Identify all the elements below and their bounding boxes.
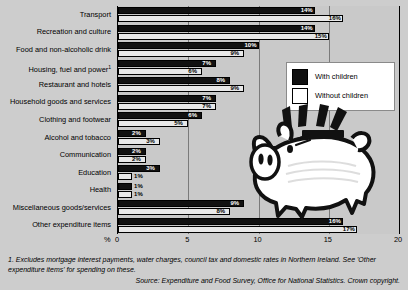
bar-without-children bbox=[118, 85, 244, 92]
bar-value-label: 9% bbox=[229, 49, 240, 57]
x-tick-10: 10 bbox=[253, 235, 261, 244]
chart-legend: With children Without children bbox=[286, 62, 395, 111]
bar-value-label: 6% bbox=[187, 67, 198, 75]
bar-without-children bbox=[118, 15, 343, 22]
bar-group: 16%17% bbox=[118, 216, 399, 234]
source-text: Source: Expenditure and Food Survey, Off… bbox=[8, 276, 400, 286]
bar-value-label: 7% bbox=[201, 94, 212, 102]
bar-without-children bbox=[118, 173, 132, 180]
legend-label-with-children: With children bbox=[315, 72, 358, 81]
bar-with-children bbox=[118, 218, 343, 225]
bar-without-children bbox=[118, 226, 357, 233]
bar-rows: 14%16%14%15%10%9%7%6%8%9%7%7%6%5%2%3%2%2… bbox=[118, 6, 399, 234]
category-label: Health bbox=[90, 186, 111, 194]
bar-value-label: 6% bbox=[187, 111, 198, 119]
bar-value-label: 1% bbox=[133, 172, 144, 180]
category-label: Miscellaneous goods/services bbox=[13, 204, 111, 212]
gridline-20 bbox=[399, 6, 400, 234]
bar-value-label: 8% bbox=[215, 76, 226, 84]
bar-with-children bbox=[118, 77, 230, 84]
bar-value-label: 5% bbox=[173, 119, 184, 127]
bar-group: 9%8% bbox=[118, 199, 399, 217]
bar-value-label: 7% bbox=[201, 59, 212, 67]
category-label: Restaurant and hotels bbox=[39, 81, 111, 89]
legend-swatch-without-children bbox=[292, 88, 308, 104]
bar-value-label: 1% bbox=[133, 182, 144, 190]
category-label: Clothing and footwear bbox=[39, 116, 111, 124]
bar-value-label: 17% bbox=[342, 225, 356, 233]
bar-without-children bbox=[118, 191, 132, 198]
legend-swatch-with-children bbox=[292, 69, 308, 85]
bar-without-children bbox=[118, 50, 244, 57]
bar-value-label: 10% bbox=[244, 41, 258, 49]
plot-area: 14%16%14%15%10%9%7%6%8%9%7%7%6%5%2%3%2%2… bbox=[117, 6, 399, 234]
bar-value-label: 2% bbox=[131, 155, 142, 163]
bar-value-label: 3% bbox=[145, 137, 156, 145]
x-tick-5: 5 bbox=[185, 235, 189, 244]
x-axis-unit: % bbox=[104, 235, 111, 244]
category-label: Housing, fuel and power1 bbox=[29, 63, 112, 74]
bar-with-children bbox=[118, 7, 315, 14]
bar-group: 14%16% bbox=[118, 6, 399, 24]
category-label: Recreation and culture bbox=[37, 28, 111, 36]
bar-with-children bbox=[118, 42, 259, 49]
value-axis: 05101520 bbox=[117, 234, 399, 248]
category-label: Food and non-alcoholic drink bbox=[16, 46, 111, 54]
bar-value-label: 2% bbox=[131, 147, 142, 155]
x-tick-20: 20 bbox=[394, 235, 402, 244]
x-tick-15: 15 bbox=[324, 235, 332, 244]
bar-value-label: 1% bbox=[133, 190, 144, 198]
bar-group: 2%3% bbox=[118, 129, 399, 147]
bar-value-label: 7% bbox=[201, 102, 212, 110]
bar-value-label: 15% bbox=[314, 32, 328, 40]
bar-value-label: 16% bbox=[328, 14, 342, 22]
bar-value-label: 8% bbox=[215, 207, 226, 215]
chart-figure: TransportRecreation and cultureFood and … bbox=[0, 0, 408, 290]
footnote-text: 1. Excludes mortgage interest payments, … bbox=[8, 255, 400, 274]
category-label: Education bbox=[78, 169, 111, 177]
bar-with-children bbox=[118, 183, 132, 190]
category-axis: TransportRecreation and cultureFood and … bbox=[0, 6, 114, 234]
category-label: Alcohol and tobacco bbox=[44, 134, 111, 142]
bar-group: 2%2% bbox=[118, 146, 399, 164]
bar-value-label: 9% bbox=[229, 84, 240, 92]
bar-group: 1%1% bbox=[118, 181, 399, 199]
bar-value-label: 3% bbox=[145, 164, 156, 172]
legend-label-without-children: Without children bbox=[315, 91, 368, 100]
bar-value-label: 9% bbox=[229, 199, 240, 207]
bar-value-label: 14% bbox=[300, 6, 314, 14]
legend-item-with-children: With children bbox=[292, 67, 389, 86]
bar-without-children bbox=[118, 208, 230, 215]
x-tick-0: 0 bbox=[115, 235, 119, 244]
category-label: Communication bbox=[60, 151, 111, 159]
footnote-marker: 1 bbox=[108, 64, 111, 70]
category-label: Other expenditure items bbox=[32, 221, 111, 229]
bar-with-children bbox=[118, 25, 315, 32]
legend-item-without-children: Without children bbox=[292, 86, 389, 105]
category-label: Transport bbox=[80, 11, 111, 19]
bar-value-label: 14% bbox=[300, 24, 314, 32]
bar-group: 6%5% bbox=[118, 111, 399, 129]
bar-group: 10%9% bbox=[118, 41, 399, 59]
bar-with-children bbox=[118, 200, 244, 207]
bar-value-label: 2% bbox=[131, 129, 142, 137]
bar-group: 3%1% bbox=[118, 164, 399, 182]
category-label: Household goods and services bbox=[10, 98, 111, 106]
bar-value-label: 16% bbox=[328, 217, 342, 225]
bar-group: 14%15% bbox=[118, 24, 399, 42]
bar-without-children bbox=[118, 33, 329, 40]
